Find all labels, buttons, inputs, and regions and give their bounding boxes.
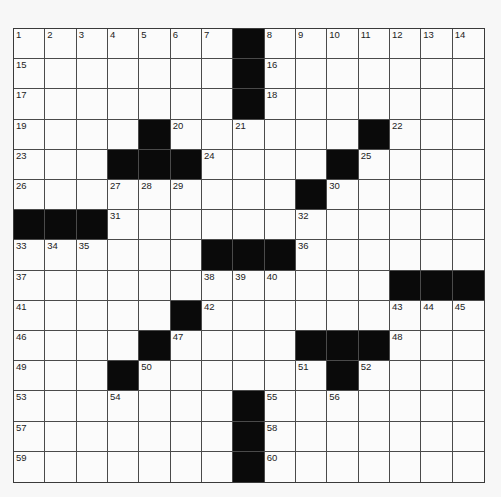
crossword-cell[interactable]: 12 [390, 29, 421, 59]
crossword-cell[interactable] [421, 180, 452, 210]
crossword-cell[interactable] [421, 391, 452, 421]
crossword-cell[interactable] [77, 180, 108, 210]
crossword-cell[interactable] [171, 422, 202, 452]
crossword-cell[interactable] [296, 150, 327, 180]
crossword-cell[interactable] [77, 89, 108, 119]
crossword-cell[interactable]: 32 [296, 210, 327, 240]
crossword-cell[interactable]: 2 [45, 29, 76, 59]
crossword-cell[interactable] [202, 452, 233, 482]
crossword-cell[interactable]: 15 [14, 59, 45, 89]
crossword-cell[interactable]: 5 [139, 29, 170, 59]
crossword-cell[interactable] [77, 331, 108, 361]
crossword-cell[interactable] [108, 452, 139, 482]
crossword-cell[interactable] [421, 361, 452, 391]
crossword-cell[interactable] [45, 301, 76, 331]
crossword-cell[interactable]: 59 [14, 452, 45, 482]
crossword-cell[interactable]: 9 [296, 29, 327, 59]
crossword-cell[interactable]: 43 [390, 301, 421, 331]
crossword-cell[interactable] [171, 391, 202, 421]
crossword-cell[interactable] [265, 210, 296, 240]
crossword-cell[interactable] [390, 422, 421, 452]
crossword-cell[interactable] [359, 452, 390, 482]
crossword-cell[interactable]: 8 [265, 29, 296, 59]
crossword-cell[interactable] [327, 271, 358, 301]
crossword-cell[interactable] [296, 301, 327, 331]
crossword-cell[interactable] [453, 180, 484, 210]
crossword-cell[interactable] [453, 120, 484, 150]
crossword-cell[interactable]: 39 [233, 271, 264, 301]
crossword-cell[interactable] [421, 150, 452, 180]
crossword-cell[interactable] [327, 120, 358, 150]
crossword-cell[interactable] [233, 361, 264, 391]
crossword-cell[interactable] [296, 452, 327, 482]
crossword-cell[interactable] [421, 120, 452, 150]
crossword-cell[interactable]: 11 [359, 29, 390, 59]
crossword-cell[interactable] [359, 59, 390, 89]
crossword-cell[interactable]: 14 [453, 29, 484, 59]
crossword-cell[interactable] [233, 301, 264, 331]
crossword-cell[interactable]: 47 [171, 331, 202, 361]
crossword-cell[interactable]: 4 [108, 29, 139, 59]
crossword-cell[interactable] [139, 301, 170, 331]
crossword-cell[interactable]: 23 [14, 150, 45, 180]
crossword-cell[interactable] [171, 240, 202, 270]
crossword-cell[interactable] [390, 150, 421, 180]
crossword-cell[interactable]: 42 [202, 301, 233, 331]
crossword-cell[interactable] [359, 271, 390, 301]
crossword-cell[interactable] [108, 331, 139, 361]
crossword-cell[interactable] [327, 422, 358, 452]
crossword-cell[interactable] [359, 240, 390, 270]
crossword-cell[interactable] [171, 452, 202, 482]
crossword-cell[interactable]: 54 [108, 391, 139, 421]
crossword-cell[interactable]: 36 [296, 240, 327, 270]
crossword-cell[interactable]: 29 [171, 180, 202, 210]
crossword-cell[interactable] [390, 59, 421, 89]
crossword-cell[interactable] [390, 240, 421, 270]
crossword-cell[interactable] [139, 240, 170, 270]
crossword-cell[interactable] [327, 301, 358, 331]
crossword-cell[interactable]: 48 [390, 331, 421, 361]
crossword-cell[interactable]: 51 [296, 361, 327, 391]
crossword-cell[interactable] [265, 361, 296, 391]
crossword-cell[interactable] [45, 452, 76, 482]
crossword-cell[interactable] [171, 361, 202, 391]
crossword-cell[interactable] [359, 301, 390, 331]
crossword-cell[interactable] [421, 422, 452, 452]
crossword-cell[interactable]: 21 [233, 120, 264, 150]
crossword-cell[interactable]: 10 [327, 29, 358, 59]
crossword-cell[interactable] [171, 59, 202, 89]
crossword-cell[interactable] [202, 120, 233, 150]
crossword-cell[interactable] [296, 271, 327, 301]
crossword-cell[interactable] [421, 331, 452, 361]
crossword-cell[interactable]: 44 [421, 301, 452, 331]
crossword-cell[interactable] [202, 59, 233, 89]
crossword-cell[interactable] [77, 150, 108, 180]
crossword-cell[interactable] [202, 361, 233, 391]
crossword-cell[interactable] [171, 210, 202, 240]
crossword-cell[interactable] [265, 331, 296, 361]
crossword-cell[interactable] [453, 240, 484, 270]
crossword-cell[interactable] [202, 422, 233, 452]
crossword-cell[interactable] [390, 210, 421, 240]
crossword-cell[interactable] [296, 59, 327, 89]
crossword-cell[interactable] [453, 422, 484, 452]
crossword-cell[interactable]: 13 [421, 29, 452, 59]
crossword-cell[interactable] [233, 331, 264, 361]
crossword-cell[interactable] [296, 120, 327, 150]
crossword-cell[interactable] [265, 150, 296, 180]
crossword-cell[interactable] [139, 210, 170, 240]
crossword-cell[interactable] [296, 391, 327, 421]
crossword-cell[interactable] [390, 452, 421, 482]
crossword-cell[interactable] [108, 240, 139, 270]
crossword-cell[interactable] [265, 120, 296, 150]
crossword-cell[interactable] [327, 89, 358, 119]
crossword-cell[interactable] [453, 361, 484, 391]
crossword-cell[interactable]: 41 [14, 301, 45, 331]
crossword-cell[interactable]: 40 [265, 271, 296, 301]
crossword-cell[interactable]: 20 [171, 120, 202, 150]
crossword-cell[interactable]: 52 [359, 361, 390, 391]
crossword-cell[interactable] [453, 89, 484, 119]
crossword-cell[interactable] [171, 89, 202, 119]
crossword-cell[interactable] [296, 89, 327, 119]
crossword-cell[interactable]: 16 [265, 59, 296, 89]
